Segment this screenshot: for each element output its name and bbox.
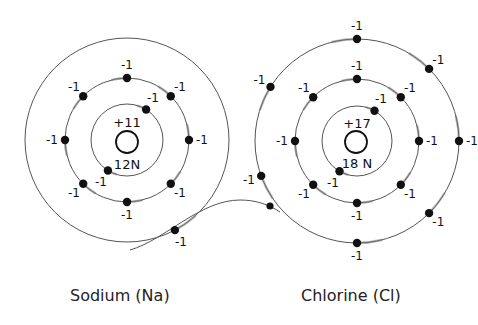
electron-charge-label: -1 xyxy=(147,91,159,105)
electron-charge-label: -1 xyxy=(175,235,187,249)
electron xyxy=(79,92,87,100)
electron xyxy=(309,181,317,189)
electron-charge-label: -1 xyxy=(351,59,363,73)
electron-charge-label: -1 xyxy=(254,73,266,87)
electron-charge-label: -1 xyxy=(95,175,107,189)
electron-charge-label: -1 xyxy=(426,134,438,148)
electron-charge-label: -1 xyxy=(243,173,255,187)
chlorine-neutron-count: 18 N xyxy=(342,156,372,171)
electron-charge-label: -1 xyxy=(46,133,58,147)
electron-charge-label: -1 xyxy=(276,134,288,148)
electron xyxy=(142,105,150,113)
electron-charge-label: -1 xyxy=(298,81,310,95)
electron xyxy=(455,137,463,145)
electron-charge-label: -1 xyxy=(432,53,444,67)
electron xyxy=(171,226,179,234)
electron-charge-label: -1 xyxy=(466,134,478,148)
electron-charge-label: -1 xyxy=(432,215,444,229)
sodium-neutron-count: 12N xyxy=(114,157,140,172)
electron xyxy=(185,136,193,144)
sodium-nucleus xyxy=(116,131,138,153)
sodium-proton-charge: +11 xyxy=(113,115,140,130)
electron xyxy=(353,239,361,247)
electron-charge-label: -1 xyxy=(351,209,363,223)
chlorine-label: Chlorine (Cl) xyxy=(301,286,401,305)
electron-charge-label: -1 xyxy=(68,186,80,200)
electron-charge-label: -1 xyxy=(196,133,208,147)
sodium-label: Sodium (Na) xyxy=(70,286,170,305)
chlorine-proton-charge: +17 xyxy=(343,116,370,131)
electron-charge-label: -1 xyxy=(351,19,363,33)
electron xyxy=(104,166,112,174)
electron xyxy=(123,74,131,82)
electron-charge-label: -1 xyxy=(298,187,310,201)
electron-charge-label: -1 xyxy=(351,249,363,263)
transferred-electron xyxy=(266,202,273,209)
electron-charge-label: -1 xyxy=(174,80,186,94)
electron xyxy=(257,172,265,180)
electron-charge-label: -1 xyxy=(404,81,416,95)
electron xyxy=(370,107,378,115)
electron-charge-label: -1 xyxy=(121,58,133,72)
electron-charge-label: -1 xyxy=(174,186,186,200)
electron xyxy=(291,137,299,145)
electron xyxy=(353,75,361,83)
electron xyxy=(335,167,343,175)
electron-charge-label: -1 xyxy=(404,187,416,201)
electron xyxy=(123,198,131,206)
electron-charge-label: -1 xyxy=(68,80,80,94)
electron-charge-label: -1 xyxy=(121,208,133,222)
electron xyxy=(61,136,69,144)
electron-charge-label: -1 xyxy=(327,176,339,190)
electron xyxy=(309,93,317,101)
electron xyxy=(266,83,274,91)
electron xyxy=(353,199,361,207)
electron xyxy=(353,35,361,43)
electron xyxy=(415,137,423,145)
electron-transfer-path xyxy=(130,200,280,250)
electron xyxy=(79,180,87,188)
atom-diagram: +11 12N +17 18 N -1-1-1-1-1-1-1-1-1-1-1-… xyxy=(0,0,478,325)
chlorine-nucleus xyxy=(345,131,367,153)
electron-charge-label: -1 xyxy=(375,92,387,106)
